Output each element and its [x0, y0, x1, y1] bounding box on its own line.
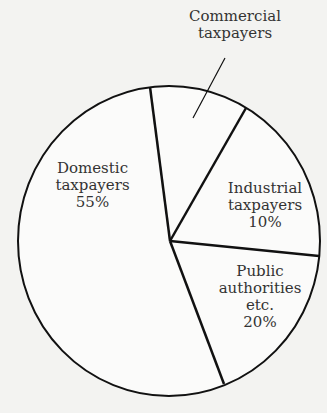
- label-commercial-line1: Commercial: [165, 8, 305, 25]
- label-domestic-line2: taxpayers: [35, 177, 150, 194]
- label-domestic-pct: 55%: [35, 194, 150, 211]
- label-commercial: Commercial taxpayers: [165, 8, 305, 42]
- label-public-line3: etc.: [205, 297, 315, 314]
- label-public-pct: 20%: [205, 314, 315, 331]
- label-public: Public authorities etc. 20%: [205, 263, 315, 331]
- label-industrial-line1: Industrial: [215, 180, 315, 197]
- label-public-line1: Public: [205, 263, 315, 280]
- label-domestic-line1: Domestic: [35, 160, 150, 177]
- label-industrial-pct: 10%: [215, 214, 315, 231]
- label-industrial-line2: taxpayers: [215, 197, 315, 214]
- label-public-line2: authorities: [205, 280, 315, 297]
- label-domestic: Domestic taxpayers 55%: [35, 160, 150, 211]
- label-commercial-line2: taxpayers: [165, 25, 305, 42]
- label-industrial: Industrial taxpayers 10%: [215, 180, 315, 231]
